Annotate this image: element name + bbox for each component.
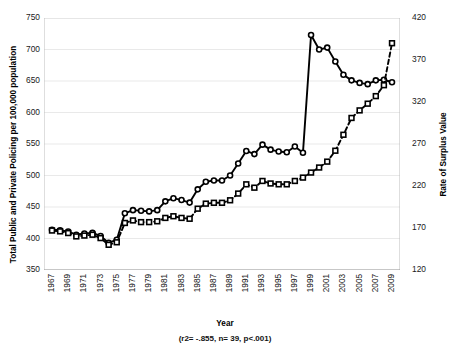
marker-square-1-3 [74, 234, 79, 239]
x-tick-1999: 1999 [306, 274, 315, 292]
marker-circle-0-18 [195, 187, 200, 192]
x-tick-1985: 1985 [193, 274, 202, 292]
x-tick-1987: 1987 [209, 274, 218, 292]
marker-circle-0-21 [220, 178, 225, 183]
x-tick-1971: 1971 [79, 274, 88, 292]
marker-circle-0-10 [130, 208, 135, 213]
marker-square-1-2 [66, 231, 71, 236]
marker-square-1-35 [333, 148, 338, 153]
marker-circle-0-29 [284, 150, 289, 155]
marker-circle-0-31 [300, 150, 305, 155]
marker-circle-0-39 [365, 82, 370, 87]
marker-square-1-27 [268, 181, 273, 186]
marker-square-1-16 [179, 216, 184, 221]
x-tick-1995: 1995 [274, 274, 283, 292]
x-tick-1967: 1967 [47, 274, 56, 292]
x-tick-2003: 2003 [338, 274, 347, 292]
marker-square-1-23 [236, 191, 241, 196]
marker-circle-0-19 [203, 179, 208, 184]
marker-square-1-15 [171, 214, 176, 219]
marker-circle-0-35 [333, 59, 338, 64]
x-tick-1975: 1975 [112, 274, 121, 292]
marker-circle-0-32 [309, 33, 314, 38]
marker-circle-0-9 [122, 211, 127, 216]
marker-circle-0-16 [179, 198, 184, 203]
marker-circle-0-28 [276, 149, 281, 154]
marker-circle-0-30 [292, 144, 297, 149]
marker-circle-0-34 [325, 45, 330, 50]
marker-square-1-7 [106, 242, 111, 247]
marker-circle-0-40 [373, 78, 378, 83]
marker-square-1-4 [82, 233, 87, 238]
marker-circle-0-22 [228, 173, 233, 178]
marker-square-1-30 [292, 179, 297, 184]
marker-square-1-0 [50, 228, 55, 233]
marker-circle-0-38 [357, 80, 362, 85]
marker-square-1-36 [341, 132, 346, 137]
marker-circle-0-11 [139, 208, 144, 213]
series-line-0 [52, 35, 392, 243]
marker-square-1-32 [309, 170, 314, 175]
marker-square-1-42 [390, 41, 395, 46]
marker-square-1-33 [317, 165, 322, 170]
marker-circle-0-23 [236, 161, 241, 166]
marker-square-1-31 [301, 175, 306, 180]
marker-circle-0-33 [317, 47, 322, 52]
marker-square-1-40 [373, 94, 378, 99]
plot-svg [44, 18, 400, 270]
marker-square-1-29 [284, 182, 289, 187]
x-tick-2007: 2007 [371, 274, 380, 292]
marker-circle-0-12 [147, 209, 152, 214]
marker-circle-0-15 [171, 196, 176, 201]
marker-square-1-22 [228, 198, 233, 203]
marker-square-1-28 [276, 182, 281, 187]
marker-square-1-8 [114, 240, 119, 245]
marker-square-1-10 [131, 218, 136, 223]
marker-circle-0-20 [211, 178, 216, 183]
x-tick-1989: 1989 [225, 274, 234, 292]
chart-container: Total Public and Private Policing per 10… [0, 0, 450, 346]
x-tick-1993: 1993 [257, 274, 266, 292]
marker-square-1-41 [382, 83, 387, 88]
marker-square-1-25 [252, 185, 257, 190]
marker-square-1-1 [58, 229, 63, 234]
marker-circle-0-24 [244, 148, 249, 153]
x-tick-1997: 1997 [290, 274, 299, 292]
marker-circle-0-42 [390, 80, 395, 85]
marker-square-1-20 [212, 200, 217, 205]
marker-square-1-24 [244, 182, 249, 187]
marker-square-1-19 [203, 201, 208, 206]
marker-square-1-12 [147, 220, 152, 225]
marker-square-1-38 [357, 108, 362, 113]
marker-square-1-9 [122, 221, 127, 226]
x-tick-1981: 1981 [160, 274, 169, 292]
x-tick-2005: 2005 [355, 274, 364, 292]
x-tick-1969: 1969 [63, 274, 72, 292]
marker-square-1-21 [220, 200, 225, 205]
marker-square-1-34 [325, 159, 330, 164]
marker-square-1-5 [90, 232, 95, 237]
marker-square-1-6 [98, 236, 103, 241]
x-tick-1977: 1977 [128, 274, 137, 292]
marker-square-1-26 [260, 179, 265, 184]
marker-square-1-18 [195, 206, 200, 211]
marker-square-1-37 [349, 116, 354, 121]
marker-circle-0-27 [268, 147, 273, 152]
marker-square-1-13 [155, 219, 160, 224]
marker-square-1-17 [187, 216, 192, 221]
marker-circle-0-25 [252, 152, 257, 157]
x-tick-2001: 2001 [322, 274, 331, 292]
marker-circle-0-13 [155, 208, 160, 213]
marker-square-1-39 [365, 101, 370, 106]
x-tick-1973: 1973 [96, 274, 105, 292]
x-tick-1991: 1991 [241, 274, 250, 292]
marker-square-1-11 [139, 220, 144, 225]
x-tick-1983: 1983 [177, 274, 186, 292]
marker-circle-0-26 [260, 142, 265, 147]
marker-circle-0-36 [341, 72, 346, 77]
x-tick-2009: 2009 [387, 274, 396, 292]
marker-circle-0-17 [187, 200, 192, 205]
plot-area [44, 18, 400, 270]
marker-circle-0-37 [349, 78, 354, 83]
x-tick-1979: 1979 [144, 274, 153, 292]
